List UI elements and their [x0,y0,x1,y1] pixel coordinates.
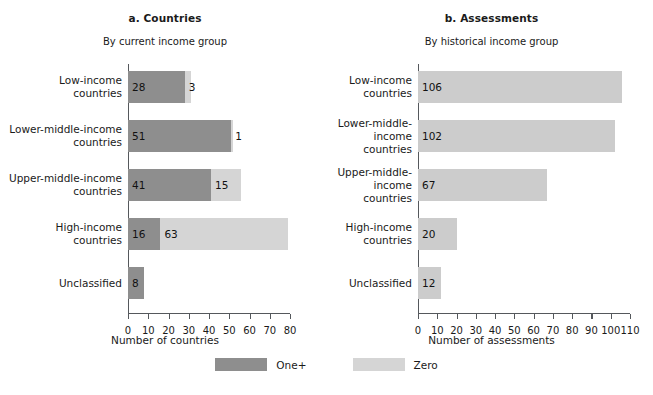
category-label: Lower-middle-income countries [300,117,418,156]
bar-segment-one-[interactable]: 41 [128,169,211,201]
x-tick [418,314,419,319]
x-axis-title-a: Number of countries [0,334,330,346]
legend-swatch-one-plus [215,358,267,371]
bar-value-label: 1 [235,130,242,142]
x-tick [457,314,458,319]
x-tick [128,314,129,319]
category-label: Lower-middle-income countries [0,123,128,149]
bar-segment-zero[interactable]: 3 [185,71,191,103]
x-tick [591,314,592,319]
x-tick [189,314,190,319]
panel-a-title: a. Countries [0,12,330,24]
x-tick [250,314,251,319]
bar-value-label: 20 [422,228,435,240]
x-tick [209,314,210,319]
bar-value-label: 63 [164,228,177,240]
category-label: Low-income countries [0,74,128,100]
x-axis-title-b: Number of assessments [330,334,653,346]
x-tick [495,314,496,319]
x-tick [290,314,291,319]
x-axis-line-b [418,313,630,314]
bar-value-label: 28 [132,81,145,93]
bar-segment-assessments[interactable]: 67 [418,169,547,201]
bar-row: Upper-middle-income countries67 [418,169,630,201]
x-tick [534,314,535,319]
bar-value-label: 106 [422,81,442,93]
bar-value-label: 16 [132,228,145,240]
panel-countries: a. Countries By current income group 010… [0,0,330,350]
category-label: Low-income countries [300,74,418,100]
legend-label: One+ [276,359,306,371]
x-tick [514,314,515,319]
bar-value-label: 8 [132,277,139,289]
bar-row: Unclassified8 [128,267,290,299]
bar-segment-assessments[interactable]: 12 [418,267,441,299]
category-label: Unclassified [0,277,128,290]
x-tick [270,314,271,319]
bar-value-label: 41 [132,179,145,191]
bar-segment-one-[interactable]: 8 [128,267,144,299]
bar-segment-assessments[interactable]: 102 [418,120,615,152]
bar-row: High-income countries20 [418,218,630,250]
bar-segment-zero[interactable]: 1 [231,120,233,152]
bar-segment-assessments[interactable]: 20 [418,218,457,250]
x-tick [611,314,612,319]
plot-area-countries: 01020304050607080 Low-income countries28… [128,64,290,314]
x-tick [630,314,631,319]
bar-value-label: 102 [422,130,442,142]
bar-row: Low-income countries283 [128,71,290,103]
bar-row: Upper-middle-income countries4115 [128,169,290,201]
bar-segment-one-[interactable]: 16 [128,218,160,250]
bar-row: Lower-middle-income countries511 [128,120,290,152]
category-label: High-income countries [0,221,128,247]
bar-value-label: 51 [132,130,145,142]
bar-value-label: 67 [422,179,435,191]
legend-swatch-zero [353,358,405,371]
x-tick [437,314,438,319]
category-label: Unclassified [300,277,418,290]
bar-row: Lower-middle-income countries102 [418,120,630,152]
bar-segment-assessments[interactable]: 106 [418,71,622,103]
panel-a-subtitle: By current income group [0,36,330,47]
category-label: Upper-middle-income countries [300,166,418,205]
bar-value-label: 15 [215,179,228,191]
figure-container: a. Countries By current income group 010… [0,0,653,395]
bar-row: High-income countries1663 [128,218,290,250]
bar-value-label: 3 [189,81,196,93]
legend-label: Zero [414,359,438,371]
bar-row: Unclassified12 [418,267,630,299]
chart-legend: One+Zero [0,358,653,371]
legend-item[interactable]: Zero [353,358,438,371]
bar-segment-one-[interactable]: 28 [128,71,185,103]
bar-value-label: 12 [422,277,435,289]
x-tick [553,314,554,319]
panel-b-subtitle: By historical income group [330,36,653,47]
bar-segment-zero[interactable]: 63 [160,218,288,250]
category-label: Upper-middle-income countries [0,172,128,198]
panel-b-title: b. Assessments [330,12,653,24]
x-tick [572,314,573,319]
legend-item[interactable]: One+ [215,358,306,371]
bar-row: Low-income countries106 [418,71,630,103]
panel-assessments: b. Assessments By historical income grou… [330,0,653,350]
bar-segment-zero[interactable]: 15 [211,169,241,201]
x-tick [169,314,170,319]
x-tick [148,314,149,319]
bar-segment-one-[interactable]: 51 [128,120,231,152]
plot-area-assessments: 0102030405060708090100110 Low-income cou… [418,64,630,314]
x-tick [476,314,477,319]
x-tick [229,314,230,319]
category-label: High-income countries [300,221,418,247]
